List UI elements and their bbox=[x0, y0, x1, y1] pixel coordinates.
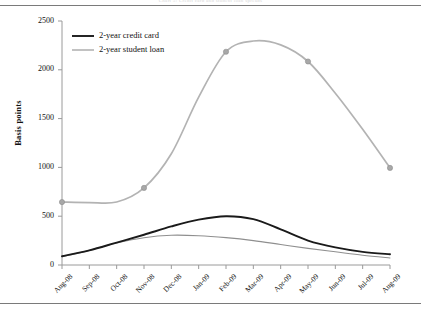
data-point-marker bbox=[387, 165, 392, 170]
y-axis-tick-label: 500 bbox=[20, 211, 54, 220]
data-point-marker bbox=[305, 59, 310, 64]
data-point-marker bbox=[59, 199, 64, 204]
legend-label-0: 2-year credit card bbox=[99, 30, 159, 40]
data-point-marker bbox=[223, 49, 228, 54]
series-line-1 bbox=[62, 41, 390, 204]
figure-panel: Chart 5: Credit card and student loan sp… bbox=[0, 0, 421, 317]
y-axis-tick-label: 1500 bbox=[20, 113, 54, 122]
series-line-2 bbox=[62, 235, 390, 258]
y-axis-tick-label: 0 bbox=[20, 260, 54, 269]
y-axis-tick-label: 2000 bbox=[20, 64, 54, 73]
chart-plot-area bbox=[0, 0, 421, 317]
y-axis-tick-label: 1000 bbox=[20, 162, 54, 171]
y-axis-tick-label: 2500 bbox=[20, 16, 54, 25]
data-point-marker bbox=[141, 185, 146, 190]
chart-svg bbox=[0, 0, 421, 317]
legend-label-1: 2-year student loan bbox=[99, 44, 164, 54]
y-axis-title: Basis points bbox=[13, 83, 23, 163]
series-line-0 bbox=[62, 216, 390, 256]
